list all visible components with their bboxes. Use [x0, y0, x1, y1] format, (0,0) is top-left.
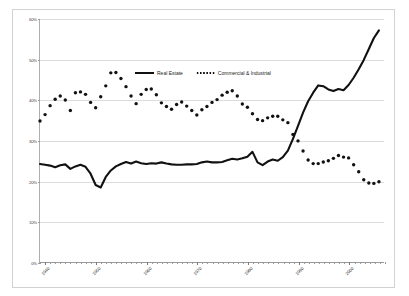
x-tick-mark-minor — [187, 262, 188, 264]
x-tick-mark-minor — [385, 262, 386, 264]
series-real-estate — [40, 30, 379, 187]
legend-entry-real-estate: Real Estate — [135, 70, 183, 76]
x-tick-mark-minor — [370, 262, 371, 264]
x-tick-mark-minor — [314, 262, 315, 264]
x-tick-mark-major — [349, 262, 350, 265]
x-tick-mark-minor — [319, 262, 320, 264]
x-tick-mark-minor — [218, 262, 219, 264]
x-tick-mark-major — [197, 262, 198, 265]
x-tick-label: 1970 — [193, 266, 203, 276]
plot-area: 0%10%20%30%40%50%60% 1940195019601970198… — [39, 19, 384, 263]
y-tick-label: 40% — [29, 98, 37, 103]
x-tick-mark-minor — [162, 262, 163, 264]
x-tick-mark-minor — [329, 262, 330, 264]
x-tick-mark-minor — [207, 262, 208, 264]
x-tick-label: 1990 — [294, 266, 304, 276]
x-tick-mark-minor — [65, 262, 66, 264]
x-tick-mark-minor — [228, 262, 229, 264]
y-tick-label: 0% — [31, 261, 37, 266]
legend-label-commercial-industrial: Commercial & Industrial — [218, 70, 271, 76]
x-tick-label: 1960 — [142, 266, 152, 276]
chart-container: 0%10%20%30%40%50%60% 1940195019601970198… — [12, 9, 395, 288]
x-tick-mark-minor — [278, 262, 279, 264]
x-tick-mark-minor — [152, 262, 153, 264]
x-tick-mark-minor — [375, 262, 376, 264]
x-tick-mark-minor — [86, 262, 87, 264]
x-tick-mark-minor — [268, 262, 269, 264]
y-tick-label: 20% — [29, 179, 37, 184]
x-tick-mark-major — [299, 262, 300, 265]
x-tick-mark-minor — [360, 262, 361, 264]
x-tick-mark-minor — [304, 262, 305, 264]
legend-line-solid-icon — [135, 72, 154, 74]
x-tick-mark-minor — [324, 262, 325, 264]
x-tick-mark-minor — [101, 262, 102, 264]
x-tick-mark-minor — [284, 262, 285, 264]
series-commercial-industrial — [38, 71, 380, 185]
y-tick-label: 50% — [29, 57, 37, 62]
x-tick-mark-minor — [294, 262, 295, 264]
x-tick-mark-minor — [172, 262, 173, 264]
x-tick-mark-minor — [167, 262, 168, 264]
x-tick-mark-minor — [91, 262, 92, 264]
x-tick-mark-minor — [334, 262, 335, 264]
x-tick-mark-minor — [202, 262, 203, 264]
x-tick-mark-minor — [70, 262, 71, 264]
series-layer — [40, 19, 384, 262]
x-tick-mark-minor — [289, 262, 290, 264]
x-tick-label: 1940 — [40, 266, 50, 276]
y-tick-label: 10% — [29, 220, 37, 225]
x-tick-mark-major — [248, 262, 249, 265]
x-tick-mark-minor — [238, 262, 239, 264]
x-tick-mark-minor — [55, 262, 56, 264]
x-tick-mark-major — [147, 262, 148, 265]
x-tick-mark-minor — [76, 262, 77, 264]
x-tick-mark-minor — [365, 262, 366, 264]
y-tick-label: 30% — [29, 139, 37, 144]
x-tick-mark-minor — [177, 262, 178, 264]
chart-legend: Real Estate Commercial & Industrial — [135, 70, 271, 76]
x-tick-mark-minor — [309, 262, 310, 264]
x-tick-mark-minor — [40, 262, 41, 264]
x-tick-mark-minor — [344, 262, 345, 264]
x-tick-mark-minor — [258, 262, 259, 264]
x-tick-mark-minor — [380, 262, 381, 264]
legend-line-dotted-icon — [196, 72, 215, 74]
x-tick-mark-minor — [141, 262, 142, 264]
x-tick-mark-major — [45, 262, 46, 265]
x-tick-mark-minor — [339, 262, 340, 264]
x-tick-mark-minor — [243, 262, 244, 264]
x-tick-mark-minor — [60, 262, 61, 264]
x-tick-label: 1950 — [91, 266, 101, 276]
x-tick-mark-minor — [355, 262, 356, 264]
x-tick-mark-minor — [81, 262, 82, 264]
x-tick-mark-minor — [182, 262, 183, 264]
x-tick-mark-minor — [106, 262, 107, 264]
x-tick-mark-minor — [263, 262, 264, 264]
x-tick-mark-minor — [213, 262, 214, 264]
x-tick-mark-minor — [192, 262, 193, 264]
x-tick-label: 1980 — [243, 266, 253, 276]
x-tick-mark-minor — [223, 262, 224, 264]
x-tick-mark-minor — [116, 262, 117, 264]
x-tick-mark-minor — [157, 262, 158, 264]
legend-entry-commercial-industrial: Commercial & Industrial — [196, 70, 271, 76]
x-tick-label: 2000 — [345, 266, 355, 276]
x-tick-mark-minor — [136, 262, 137, 264]
x-tick-mark-minor — [253, 262, 254, 264]
x-tick-mark-minor — [126, 262, 127, 264]
x-tick-mark-minor — [121, 262, 122, 264]
y-tick-label: 60% — [29, 17, 37, 22]
x-tick-mark-minor — [50, 262, 51, 264]
x-tick-mark-minor — [273, 262, 274, 264]
x-tick-mark-minor — [131, 262, 132, 264]
x-tick-mark-minor — [233, 262, 234, 264]
x-tick-mark-major — [96, 262, 97, 265]
legend-label-real-estate: Real Estate — [157, 70, 183, 76]
plot-wrapper: 0%10%20%30%40%50%60% 1940195019601970198… — [13, 10, 394, 287]
x-tick-mark-minor — [111, 262, 112, 264]
